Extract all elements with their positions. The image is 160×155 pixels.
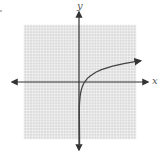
x-axis-label: x bbox=[152, 76, 158, 86]
y-axis-label: y bbox=[77, 1, 83, 11]
log-graph bbox=[0, 0, 160, 155]
